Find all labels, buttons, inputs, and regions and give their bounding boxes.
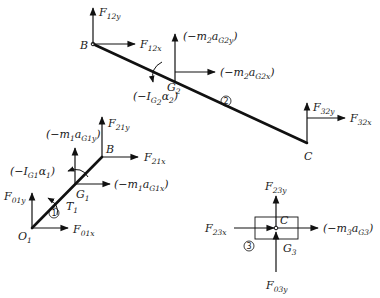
label-point-g3: G3	[283, 242, 297, 257]
label-point-o1: O1	[18, 230, 32, 245]
link-number-3: 3	[246, 242, 251, 251]
label-f23x: F23x	[204, 222, 227, 237]
label-inertia-m1ag1y: (−m1aG1y)	[46, 128, 101, 143]
link-number-1: 1	[51, 209, 56, 218]
link-number-2: 2	[223, 97, 228, 106]
label-point-c-3: C	[280, 214, 289, 227]
link-2: F12y F12x B (−m2aG2y) (−m2aG2x) G2 (−IG2…	[79, 6, 372, 163]
label-point-b-1: B	[105, 143, 114, 156]
label-f32y: F32y	[312, 101, 335, 116]
label-f12y: F12y	[98, 6, 121, 21]
label-point-c-2: C	[304, 150, 313, 163]
joint-c-3	[274, 226, 278, 230]
label-point-g1: G1	[76, 188, 90, 203]
label-inertia-moment-1: (−IG1α1)	[10, 165, 55, 180]
label-f23y: F23y	[264, 180, 287, 195]
label-inertia-m3ag3: (−m3aG3)	[323, 222, 373, 237]
label-inertia-m2ag2x: (−m2aG2x)	[220, 66, 275, 81]
label-torque-t1: T1	[66, 200, 78, 215]
label-f01y: F01y	[3, 190, 26, 205]
label-f21y: F21y	[107, 117, 130, 132]
label-inertia-m2ag2y: (−m2aG2y)	[183, 30, 238, 45]
label-f01x: F01x	[72, 223, 95, 238]
label-inertia-m1ag1x: (−m1aG1x)	[114, 178, 169, 193]
label-f12x: F12x	[139, 38, 162, 53]
label-f32x: F32x	[349, 112, 372, 127]
label-f03y: F03y	[265, 279, 288, 294]
link-1: F21y B F21x (−m1aG1y) (−m1aG1x) (−IG1α1)…	[3, 117, 169, 245]
label-f21x: F21x	[143, 151, 166, 166]
free-body-diagram: F12y F12x B (−m2aG2y) (−m2aG2x) G2 (−IG2…	[0, 0, 380, 298]
label-point-b-2: B	[79, 39, 88, 52]
link-3: F23y F23x C (−m3aG3) 3 F03y G3	[204, 180, 373, 294]
